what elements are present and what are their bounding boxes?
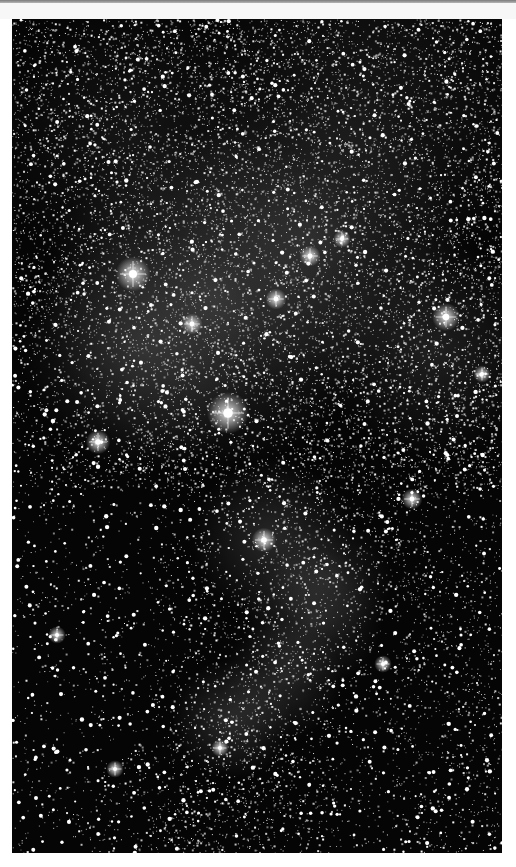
- top-margin: [0, 3, 516, 19]
- photo-frame: [12, 19, 502, 853]
- starfield-photo: [12, 19, 502, 853]
